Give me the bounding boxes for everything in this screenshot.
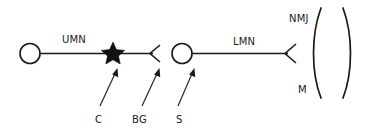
label-bg: BG	[132, 114, 147, 125]
label-umn: UMN	[62, 34, 86, 45]
label-nmj: NMJ	[289, 13, 309, 24]
label-c: C	[95, 114, 102, 125]
muscle-left-arc	[314, 8, 322, 98]
diagram-canvas: UMN LMN NMJ M C BG S	[0, 0, 371, 130]
annotation-arrow-bg-head	[154, 68, 160, 77]
annotation-arrow-s-line	[178, 73, 193, 107]
annotation-arrow-s-head	[189, 68, 195, 77]
upper-motor-neuron-soma	[20, 44, 40, 64]
motor-pathway-diagram: UMN LMN NMJ M C BG S	[0, 0, 371, 130]
annotation-arrow-c-line	[100, 73, 116, 107]
muscle-right-arc	[343, 8, 351, 98]
label-lmn: LMN	[233, 36, 255, 47]
annotation-arrow-bg-line	[142, 73, 158, 107]
lower-motor-neuron-soma	[172, 44, 192, 64]
annotation-arrow-c-head	[112, 68, 118, 77]
label-m: M	[298, 84, 307, 95]
lesion-star-icon	[101, 42, 124, 64]
label-s: S	[176, 114, 183, 125]
